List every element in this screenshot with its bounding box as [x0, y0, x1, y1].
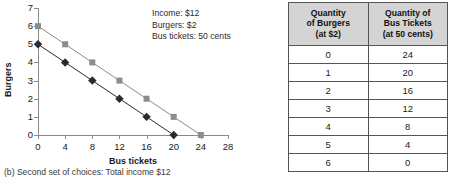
cell-burgers: 6 [289, 154, 369, 172]
cell-bus-tickets: 4 [368, 136, 448, 154]
y-tick-label: 1 [19, 112, 33, 121]
data-point-marker [170, 131, 178, 139]
data-point-marker [144, 96, 150, 102]
y-axis-title: Burgers [2, 40, 14, 120]
y-tick-label: 5 [19, 39, 33, 48]
header-line: Quantity [290, 8, 367, 19]
y-tick-label: 6 [19, 21, 33, 30]
table-row: 60 [289, 154, 448, 172]
annotation-line-burgers: Burgers: $2 [152, 20, 231, 32]
data-point-marker [88, 76, 96, 84]
chart-annotation: Income: $12 Burgers: $2 Bus tickets: 50 … [152, 8, 231, 43]
cell-burgers: 4 [289, 118, 369, 136]
x-tick-label: 24 [191, 142, 211, 152]
series-line [38, 44, 174, 135]
x-tick-label: 16 [137, 142, 157, 152]
data-point-marker [62, 41, 68, 47]
data-point-marker [61, 58, 69, 66]
header-line: Bus Tickets [370, 18, 447, 29]
table-row: 54 [289, 136, 448, 154]
x-tick [228, 135, 229, 139]
cell-burgers: 2 [289, 82, 369, 100]
y-tick-label: 0 [19, 130, 33, 139]
annotation-line-income: Income: $12 [152, 8, 231, 20]
cell-burgers: 5 [289, 136, 369, 154]
figure-caption: (b) Second set of choices: Total income … [4, 167, 171, 177]
cell-bus-tickets: 20 [368, 64, 448, 82]
header-line: (at 50 cents) [370, 29, 447, 40]
table-row: 216 [289, 82, 448, 100]
cell-bus-tickets: 0 [368, 154, 448, 172]
header-line: Quantity of [370, 8, 447, 19]
data-point-marker [35, 23, 41, 29]
table-header-row: Quantity of Burgers (at $2) Quantity of … [289, 3, 448, 46]
data-point-marker [142, 113, 150, 121]
x-tick-label: 8 [82, 142, 102, 152]
data-point-marker [198, 132, 204, 138]
column-header-burgers: Quantity of Burgers (at $2) [289, 3, 369, 46]
table-head: Quantity of Burgers (at $2) Quantity of … [289, 3, 448, 46]
x-tick-label: 0 [28, 142, 48, 152]
y-tick-label: 2 [19, 94, 33, 103]
table-row: 024 [289, 46, 448, 64]
data-point-marker [116, 78, 122, 84]
table-row: 120 [289, 64, 448, 82]
x-tick-label: 4 [55, 142, 75, 152]
table-row: 48 [289, 118, 448, 136]
table-panel: Quantity of Burgers (at $2) Quantity of … [288, 2, 448, 176]
cell-burgers: 3 [289, 100, 369, 118]
y-tick-label: 7 [19, 3, 33, 12]
data-point-marker [115, 95, 123, 103]
x-tick-label: 20 [164, 142, 184, 152]
y-tick-label: 3 [19, 76, 33, 85]
header-line: (at $2) [290, 29, 367, 40]
column-header-bus-tickets: Quantity of Bus Tickets (at 50 cents) [368, 3, 448, 46]
annotation-line-bus-tickets: Bus tickets: 50 cents [152, 31, 231, 43]
cell-burgers: 0 [289, 46, 369, 64]
data-point-marker [89, 59, 95, 65]
x-tick-label: 12 [109, 142, 129, 152]
x-axis-title: Bus tickets [38, 156, 228, 166]
x-tick-label: 28 [218, 142, 238, 152]
cell-burgers: 1 [289, 64, 369, 82]
data-point-marker [171, 114, 177, 120]
table-body: 024120216312485460 [289, 46, 448, 172]
data-point-marker [34, 40, 42, 48]
header-line: of Burgers [290, 18, 367, 29]
figure-root: Burgers 01234567 0481216202428 Bus ticke… [0, 0, 451, 178]
table-row: 312 [289, 100, 448, 118]
chart-panel: Burgers 01234567 0481216202428 Bus ticke… [0, 0, 240, 178]
cell-bus-tickets: 8 [368, 118, 448, 136]
cell-bus-tickets: 16 [368, 82, 448, 100]
cell-bus-tickets: 12 [368, 100, 448, 118]
cell-bus-tickets: 24 [368, 46, 448, 64]
y-tick-label: 4 [19, 57, 33, 66]
budget-table: Quantity of Burgers (at $2) Quantity of … [288, 2, 448, 172]
